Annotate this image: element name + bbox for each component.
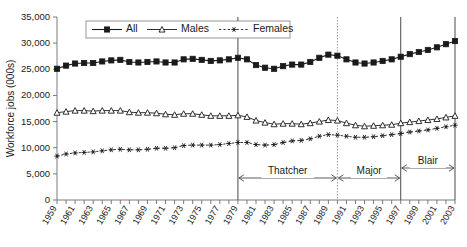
- marker-females: [389, 132, 394, 137]
- marker-all: [118, 57, 123, 62]
- x-tick-label: 1961: [58, 204, 77, 226]
- marker-all: [145, 59, 150, 64]
- x-tick-label: 1979: [221, 204, 240, 226]
- era-label-blair: Blair: [418, 155, 439, 166]
- marker-all: [109, 58, 114, 63]
- marker-females: [425, 128, 430, 133]
- marker-females: [154, 146, 159, 151]
- legend-label-males: Males: [181, 22, 209, 34]
- legend-label-all: All: [126, 22, 138, 34]
- marker-all: [308, 59, 313, 64]
- marker-all: [335, 53, 340, 58]
- marker-females: [244, 140, 249, 145]
- marker-females: [299, 138, 304, 143]
- marker-all: [362, 61, 367, 66]
- marker-males: [452, 113, 458, 119]
- marker-females: [145, 147, 150, 152]
- x-tick-label: 1967: [112, 204, 131, 226]
- marker-all: [244, 57, 249, 62]
- marker-females: [289, 139, 294, 144]
- marker-females: [81, 150, 86, 155]
- marker-females: [190, 143, 195, 148]
- marker-males: [253, 118, 259, 124]
- marker-all: [326, 52, 331, 57]
- marker-females: [335, 133, 340, 138]
- marker-females: [380, 133, 385, 138]
- marker-all: [452, 38, 457, 43]
- marker-all: [344, 57, 349, 62]
- x-tick-label: 1995: [366, 204, 385, 226]
- x-tick-label: 1963: [76, 204, 95, 226]
- marker-females: [416, 129, 421, 134]
- x-tick-label: 2003: [438, 204, 457, 226]
- marker-females: [353, 135, 358, 140]
- y-tick-label: 20,000: [21, 89, 50, 100]
- marker-all: [190, 56, 195, 61]
- marker-all: [127, 59, 132, 64]
- marker-all: [199, 57, 204, 62]
- marker-females: [308, 136, 313, 141]
- marker-females: [172, 145, 177, 150]
- marker-all: [226, 57, 231, 62]
- x-tick-label: 1977: [203, 204, 222, 226]
- marker-females: [72, 151, 77, 156]
- marker-all: [253, 63, 258, 68]
- marker-all: [217, 58, 222, 63]
- x-tick-label: 1985: [275, 204, 294, 226]
- era-label-major: Major: [357, 165, 383, 176]
- marker-females: [362, 135, 367, 140]
- y-axis-title: Workforce jobs (000s): [5, 60, 16, 158]
- marker-all: [353, 60, 358, 65]
- marker-all: [434, 45, 439, 50]
- workforce-jobs-chart: 05,00010,00015,00020,00025,00030,00035,0…: [0, 0, 467, 247]
- x-tick-label: 1981: [239, 204, 258, 226]
- y-tick-label: 0: [45, 194, 50, 205]
- marker-females: [443, 124, 448, 129]
- x-tick-label: 1975: [185, 204, 204, 226]
- y-tick-label: 25,000: [21, 63, 50, 74]
- x-tick-label: 1991: [330, 204, 349, 226]
- marker-all: [235, 55, 240, 60]
- marker-females: [262, 143, 267, 148]
- marker-all: [299, 62, 304, 67]
- marker-all: [380, 58, 385, 63]
- marker-females: [109, 147, 114, 152]
- marker-all: [163, 60, 168, 65]
- marker-all: [407, 52, 412, 57]
- marker-females: [407, 130, 412, 135]
- marker-all: [72, 61, 77, 66]
- marker-females: [100, 149, 105, 154]
- marker-females: [280, 140, 285, 145]
- marker-all: [425, 47, 430, 52]
- x-tick-label: 1987: [293, 204, 312, 226]
- marker-all: [154, 59, 159, 64]
- marker-females: [371, 134, 376, 139]
- x-tick-label: 1999: [402, 204, 421, 226]
- marker-females: [434, 126, 439, 131]
- legend-marker-all: [104, 27, 109, 32]
- marker-females: [118, 147, 123, 152]
- marker-all: [281, 64, 286, 69]
- marker-females: [127, 147, 132, 152]
- marker-females: [326, 132, 331, 137]
- y-tick-label: 15,000: [21, 116, 50, 127]
- legend-label-females: Females: [253, 22, 293, 34]
- marker-all: [91, 60, 96, 65]
- marker-all: [416, 49, 421, 54]
- x-tick-label: 1965: [94, 204, 113, 226]
- marker-all: [290, 62, 295, 67]
- marker-all: [82, 60, 87, 65]
- x-tick-label: 1989: [311, 204, 330, 226]
- marker-all: [371, 60, 376, 65]
- x-tick-label: 1969: [131, 204, 150, 226]
- marker-females: [226, 141, 231, 146]
- marker-females: [163, 146, 168, 151]
- marker-all: [100, 59, 105, 64]
- chart-svg: 05,00010,00015,00020,00025,00030,00035,0…: [0, 0, 467, 247]
- x-tick-label: 1959: [40, 204, 59, 226]
- x-tick-label: 2001: [420, 204, 439, 226]
- marker-females: [199, 143, 204, 148]
- marker-all: [262, 65, 267, 70]
- marker-all: [398, 54, 403, 59]
- marker-all: [443, 42, 448, 47]
